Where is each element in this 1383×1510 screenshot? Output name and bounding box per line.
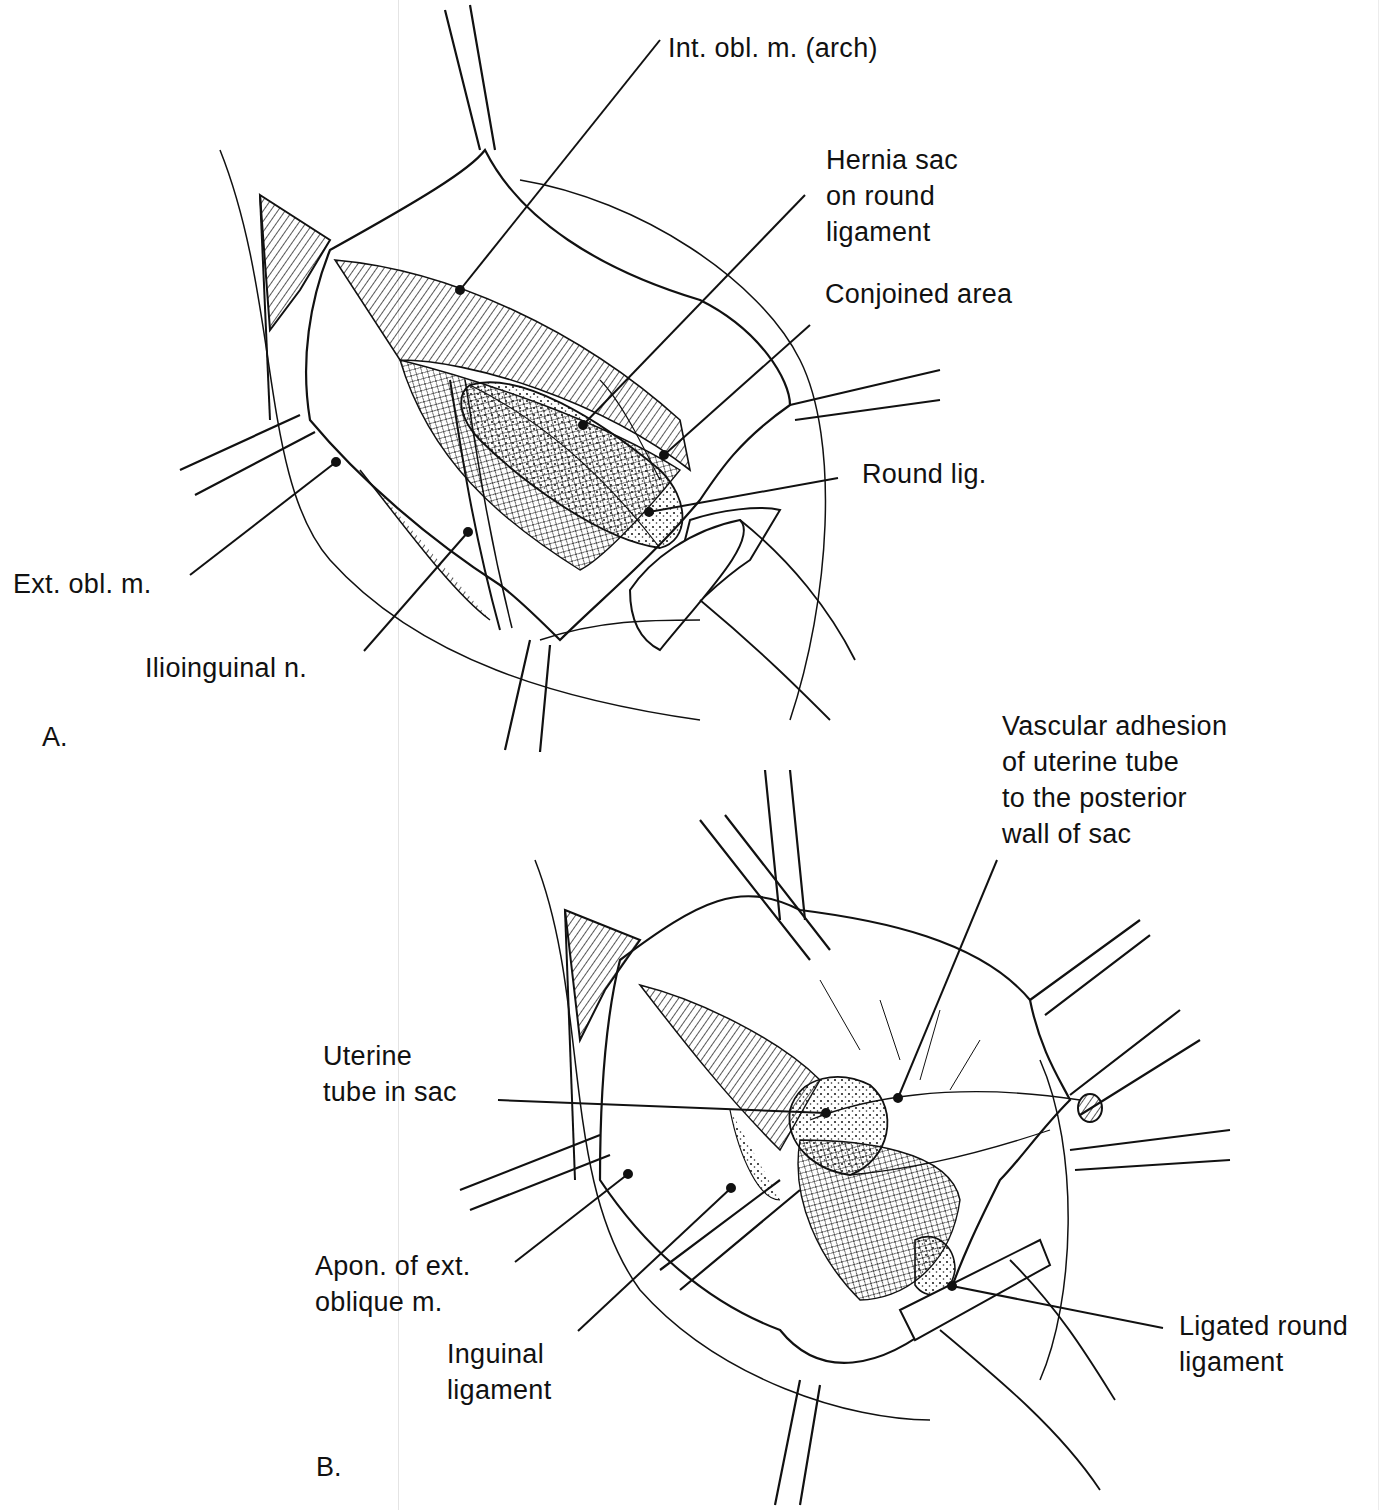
label-conjoined-area: Conjoined area bbox=[825, 276, 1012, 312]
panel-letter-a: A. bbox=[42, 722, 68, 753]
panel-b-drawing bbox=[460, 770, 1230, 1505]
label-ext-obl-m: Ext. obl. m. bbox=[13, 566, 152, 602]
panel-letter-b: B. bbox=[316, 1452, 342, 1483]
label-int-obl-m-arch: Int. obl. m. (arch) bbox=[668, 30, 878, 66]
panel-a-drawing bbox=[180, 5, 940, 752]
label-apon-ext-oblique: Apon. of ext. oblique m. bbox=[315, 1248, 471, 1320]
label-ilioinguinal-n: Ilioinguinal n. bbox=[145, 650, 307, 686]
label-uterine-tube-in-sac: Uterine tube in sac bbox=[323, 1038, 457, 1110]
label-hernia-sac: Hernia sac on round ligament bbox=[826, 142, 958, 250]
label-inguinal-ligament: Inguinal ligament bbox=[447, 1336, 551, 1408]
label-ligated-round-ligament: Ligated round ligament bbox=[1179, 1308, 1348, 1380]
label-round-lig: Round lig. bbox=[862, 456, 987, 492]
label-vascular-adhesion: Vascular adhesion of uterine tube to the… bbox=[1002, 708, 1227, 852]
